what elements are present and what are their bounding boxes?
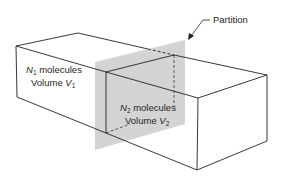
- right-box-front-right-edge: [197, 98, 198, 170]
- right-volume: Volume V2: [125, 115, 169, 129]
- right-box-bottom-front-edge: [106, 133, 197, 170]
- n1-symbol: N: [26, 64, 33, 75]
- right-molecule-count: N2 molecules: [120, 102, 176, 116]
- partition-leader-line: [191, 20, 210, 36]
- left-box-front-left-edge: [16, 46, 17, 97]
- v2-subscript: 2: [166, 120, 170, 127]
- right-box-top-right-edge: [198, 75, 267, 98]
- partition-label: Partition: [213, 14, 248, 25]
- partition-plane: [95, 40, 185, 150]
- left-volume: Volume V1: [31, 77, 75, 91]
- left-molecule-count: N1 molecules: [26, 64, 82, 78]
- partition-arrow-icon: [188, 33, 194, 40]
- top-back-edge: [78, 33, 148, 49]
- n1-suffix: molecules: [37, 64, 82, 75]
- left-box-bottom-front-edge: [17, 97, 106, 133]
- partitioned-box-diagram: Partition N1 molecules Volume V1 N2 mole…: [0, 0, 281, 182]
- v2-prefix: Volume: [125, 115, 159, 126]
- n2-suffix: molecules: [131, 102, 176, 113]
- right-box-bottom-right-edge: [197, 141, 267, 170]
- v1-subscript: 1: [72, 82, 76, 89]
- right-box-top-back-edge: [174, 55, 267, 75]
- box-drawing: [0, 0, 281, 182]
- n2-symbol: N: [120, 102, 127, 113]
- left-box-top-left-edge: [16, 33, 78, 46]
- v1-prefix: Volume: [31, 77, 65, 88]
